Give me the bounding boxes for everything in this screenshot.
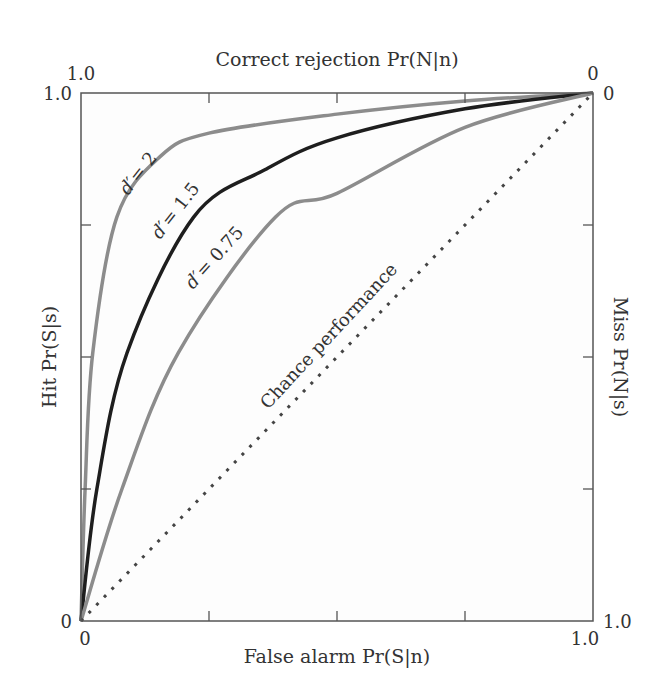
left-axis-title: Hit Pr(S|s) <box>38 306 61 408</box>
roc-chart: Correct rejection Pr(N|n) False alarm Pr… <box>0 0 666 700</box>
top-axis-title: Correct rejection Pr(N|n) <box>215 48 458 71</box>
right-axis-title: Miss Pr(N|s) <box>609 297 632 418</box>
bottom-axis-title: False alarm Pr(S|n) <box>244 645 431 668</box>
top-axis-tick-right: 0 <box>587 63 598 84</box>
bottom-axis-tick-right: 1.0 <box>571 628 600 649</box>
right-axis-tick-bottom: 1.0 <box>603 611 632 632</box>
top-axis-tick-left: 1.0 <box>67 63 96 84</box>
left-axis-tick-bottom: 0 <box>61 611 72 632</box>
left-axis-tick-top: 1.0 <box>43 83 72 104</box>
bottom-axis-tick-left: 0 <box>79 628 90 649</box>
right-axis-tick-top: 0 <box>603 83 614 104</box>
